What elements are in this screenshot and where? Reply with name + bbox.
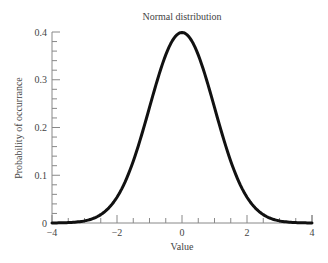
y-tick-labels: 00.10.20.30.4 [35, 27, 48, 229]
pdf-curve [52, 33, 312, 223]
y-tick-label: 0.1 [35, 170, 48, 181]
x-tick-labels: −4−2024 [47, 227, 315, 238]
x-tick-label: −2 [112, 227, 123, 238]
x-tick-label: 0 [180, 227, 185, 238]
normal-distribution-chart: Normal distribution −4−2024 00.10.20.30.… [0, 0, 328, 263]
y-tick-label: 0.4 [35, 27, 48, 38]
x-tick-label: 2 [245, 227, 250, 238]
y-tick-label: 0.2 [35, 122, 48, 133]
x-tick-label: −4 [47, 227, 58, 238]
x-axis-label: Value [171, 241, 194, 252]
axes [52, 32, 312, 223]
ticks [52, 32, 312, 223]
y-axis-label: Probability of occurrance [13, 77, 24, 179]
x-tick-label: 4 [310, 227, 315, 238]
chart-title: Normal distribution [142, 11, 221, 22]
y-tick-label: 0 [42, 218, 47, 229]
y-tick-label: 0.3 [35, 74, 48, 85]
